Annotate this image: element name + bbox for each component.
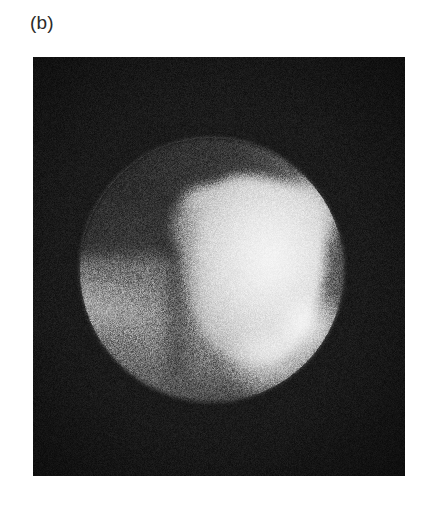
hot-uptake-left-groove: [168, 198, 198, 378]
hot-uptake-apex-fade: [176, 374, 344, 402]
hot-uptake-core: [276, 293, 344, 367]
panel-label: (b): [30, 10, 54, 36]
nuclear-medicine-scan-panel: [33, 57, 405, 476]
hot-uptake-region: [80, 138, 344, 402]
